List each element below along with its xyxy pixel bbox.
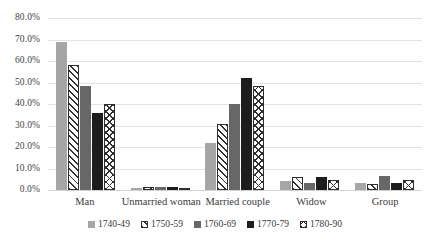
legend-item[interactable]: 1780-90	[300, 220, 342, 230]
plot-area	[48, 18, 422, 190]
legend-item[interactable]: 1760-69	[194, 220, 236, 230]
y-tick-label: 50.0%	[15, 78, 40, 88]
bar	[391, 183, 402, 190]
x-axis-label: Unmarried woman	[122, 192, 201, 212]
bar	[143, 187, 154, 190]
bar	[280, 181, 291, 190]
bar	[131, 188, 142, 190]
bar	[179, 188, 190, 190]
bar-group	[198, 18, 273, 190]
bar-groups	[48, 18, 422, 190]
y-tick-label: 80.0%	[15, 13, 40, 23]
bar	[155, 187, 166, 190]
bar	[217, 124, 228, 190]
bar	[229, 104, 240, 190]
legend-item[interactable]: 1740-49	[88, 220, 130, 230]
legend-swatch-icon	[194, 221, 201, 228]
legend-label: 1740-49	[98, 220, 130, 230]
gridline-0.0%	[48, 190, 422, 191]
legend-swatch-icon	[88, 221, 95, 228]
bar	[292, 177, 303, 190]
bar	[80, 86, 91, 190]
legend-swatch-icon	[300, 221, 307, 228]
bar	[68, 65, 79, 190]
x-axis-label: Widow	[275, 192, 349, 212]
x-axis-label: Man	[48, 192, 122, 212]
bar	[56, 42, 67, 190]
x-axis: ManUnmarried womanMarried coupleWidowGro…	[48, 192, 422, 212]
bar	[328, 180, 339, 190]
bar	[205, 143, 216, 190]
bar	[379, 176, 390, 190]
bar	[316, 177, 327, 190]
y-tick-label: 0.0%	[20, 185, 40, 195]
bar	[304, 183, 315, 190]
legend-label: 1750-59	[151, 220, 183, 230]
bar	[403, 180, 414, 190]
legend: 1740-491750-591760-691770-791780-90	[0, 220, 430, 230]
bar-group	[347, 18, 422, 190]
bar	[355, 183, 366, 190]
legend-label: 1770-79	[257, 220, 289, 230]
legend-label: 1760-69	[204, 220, 236, 230]
bar	[253, 86, 264, 190]
bar	[367, 184, 378, 190]
legend-item[interactable]: 1750-59	[141, 220, 183, 230]
bar	[104, 104, 115, 190]
bar	[167, 187, 178, 190]
y-tick-label: 10.0%	[15, 164, 40, 174]
bar-chart: 0.0%10.0%20.0%30.0%40.0%50.0%60.0%70.0%8…	[0, 0, 430, 243]
legend-label: 1780-90	[310, 220, 342, 230]
x-axis-label: Married couple	[201, 192, 275, 212]
y-tick-label: 70.0%	[15, 35, 40, 45]
legend-item[interactable]: 1770-79	[247, 220, 289, 230]
bar-group	[123, 18, 198, 190]
legend-swatch-icon	[141, 221, 148, 228]
y-tick-label: 20.0%	[15, 142, 40, 152]
y-tick-label: 40.0%	[15, 99, 40, 109]
bar	[92, 113, 103, 190]
y-tick-label: 60.0%	[15, 56, 40, 66]
bar-group	[48, 18, 123, 190]
legend-swatch-icon	[247, 221, 254, 228]
bar-group	[272, 18, 347, 190]
bar	[241, 78, 252, 190]
x-axis-label: Group	[348, 192, 422, 212]
y-tick-label: 30.0%	[15, 121, 40, 131]
y-axis: 0.0%10.0%20.0%30.0%40.0%50.0%60.0%70.0%8…	[0, 18, 44, 190]
